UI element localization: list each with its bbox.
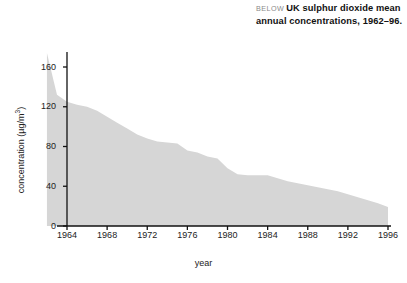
figure: BELOWUK sulphur dioxide mean annual conc… bbox=[0, 0, 407, 283]
chart-plot-area: concentration (µg/m3) year 04080120160 1… bbox=[0, 0, 407, 283]
x-tick-label: 1992 bbox=[328, 231, 368, 240]
y-tick-label: 40 bbox=[22, 182, 56, 191]
y-tick-label: 120 bbox=[22, 102, 56, 111]
x-tick-label: 1980 bbox=[208, 231, 248, 240]
y-tick-label: 80 bbox=[22, 142, 56, 151]
x-tick-label: 1984 bbox=[248, 231, 288, 240]
y-tick-label: 160 bbox=[22, 63, 56, 72]
area-chart-svg bbox=[0, 0, 407, 283]
so2-area-series bbox=[47, 53, 388, 226]
x-axis-title: year bbox=[0, 258, 407, 268]
x-tick-label: 1972 bbox=[127, 231, 167, 240]
x-tick-label: 1964 bbox=[47, 231, 87, 240]
x-tick-label: 1968 bbox=[87, 231, 127, 240]
y-axis-title-sup: 3 bbox=[14, 110, 21, 114]
x-tick-label: 1996 bbox=[368, 231, 407, 240]
y-tick-label: 0 bbox=[22, 222, 56, 231]
x-tick-label: 1976 bbox=[167, 231, 207, 240]
x-tick-label: 1988 bbox=[288, 231, 328, 240]
